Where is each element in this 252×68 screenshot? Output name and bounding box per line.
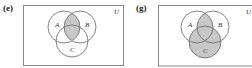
set-label-a: A (54, 21, 60, 29)
set-label-c: C (70, 46, 75, 54)
set-label-b: B (218, 21, 223, 29)
venn-diagram-g: A B C U (126, 0, 252, 68)
venn-diagram-e: A B C U (0, 0, 126, 68)
set-label-a: A (187, 21, 193, 29)
set-label-b: B (85, 21, 90, 29)
venn-panel-g: (g) A B C U (126, 0, 252, 68)
venn-panel-e: (e) A B C U (0, 0, 126, 68)
set-label-c: C (203, 47, 208, 55)
